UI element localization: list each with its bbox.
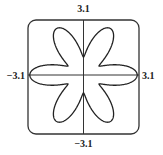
tick-label-left: −3.1 [7,70,25,81]
tick-label-bottom: −3.1 [74,138,92,149]
tick-label-right: 3.1 [142,70,155,81]
tick-label-top: 3.1 [77,3,90,14]
polar-rose-chart: 3.1 −3.1 −3.1 3.1 [0,0,163,155]
